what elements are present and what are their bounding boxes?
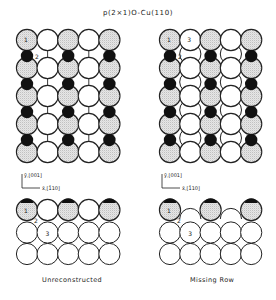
oxygen-atom — [21, 198, 34, 203]
oxygen-atom — [62, 134, 74, 146]
cu-atom — [180, 113, 201, 134]
cu-atom — [78, 113, 99, 134]
cu-atom-top-row — [200, 29, 221, 50]
y-axis-label: ȳ,[001] — [164, 172, 182, 179]
cu-atom — [78, 85, 99, 106]
cu-atom — [78, 199, 99, 220]
second-layer-arc — [220, 208, 241, 219]
cu-atom-subsurface — [200, 222, 221, 243]
cu-atom-subsurface — [58, 243, 79, 264]
top-view: 132 — [159, 29, 261, 162]
cu-atom — [37, 113, 58, 134]
cu-atom-subsurface — [200, 243, 221, 264]
atom-label: 2 — [34, 217, 38, 224]
atom-label: 1 — [24, 207, 28, 214]
oxygen-atom — [164, 78, 176, 90]
cu-atom — [180, 57, 201, 78]
cu-atom — [220, 29, 241, 50]
oxygen-atom — [103, 78, 115, 90]
oxygen-atom — [204, 198, 217, 203]
oxygen-atom — [62, 198, 75, 203]
oxygen-atom — [164, 50, 176, 62]
cu-atom — [220, 85, 241, 106]
cu-atom-subsurface — [16, 243, 37, 264]
atom-label: 1 — [24, 36, 28, 43]
cu-atom-subsurface — [16, 222, 37, 243]
unreconstructed-panel: 12ȳ,[001]x̄,[1̄10]123 — [16, 29, 120, 264]
cu-atom-subsurface — [220, 222, 241, 243]
oxygen-atom — [245, 198, 258, 203]
cu-atom — [37, 199, 58, 220]
oxygen-atom — [21, 106, 33, 118]
x-axis-label: x̄,[1̄10] — [182, 185, 200, 191]
missing-row-panel: 132ȳ,[001]x̄,[1̄10]123 — [159, 29, 261, 264]
oxygen-atom — [62, 50, 74, 62]
oxygen-atom — [103, 134, 115, 146]
cu-atom-subsurface — [99, 243, 120, 264]
oxygen-atom — [103, 198, 116, 203]
cu-atom — [180, 85, 201, 106]
axes-indicator: ȳ,[001]x̄,[1̄10] — [162, 172, 200, 191]
cu-atom-subsurface — [78, 222, 99, 243]
cu-atom-top-row — [241, 29, 262, 50]
oxygen-atom — [204, 50, 216, 62]
cu-atom — [37, 29, 58, 50]
atom-label: 2 — [178, 53, 182, 60]
cu-atom — [220, 141, 241, 162]
atom-label: 3 — [187, 36, 191, 43]
cu-atom — [78, 29, 99, 50]
oxygen-atom — [21, 50, 33, 62]
cu-atom — [78, 141, 99, 162]
cu-atom — [220, 57, 241, 78]
cu-atom — [37, 57, 58, 78]
oxygen-atom — [245, 78, 257, 90]
oxygen-atom — [204, 134, 216, 146]
cu-atom-subsurface — [99, 222, 120, 243]
oxygen-atom — [164, 198, 177, 203]
atom-label: 1 — [167, 207, 171, 214]
oxygen-atom — [21, 78, 33, 90]
oxygen-atom — [245, 50, 257, 62]
unreconstructed-caption: Unreconstructed — [42, 276, 102, 284]
oxygen-atom — [62, 106, 74, 118]
y-axis-label: ȳ,[001] — [24, 172, 42, 179]
cu-atom-subsurface — [159, 222, 180, 243]
cu-atom — [37, 141, 58, 162]
oxygen-atom — [245, 106, 257, 118]
side-view: 123 — [159, 198, 261, 264]
oxygen-atom — [164, 134, 176, 146]
cu-atom — [220, 113, 241, 134]
cu-atom-subsurface — [241, 243, 262, 264]
cu-atom-subsurface — [78, 243, 99, 264]
oxygen-atom — [103, 106, 115, 118]
atom-label: 3 — [188, 230, 192, 237]
cu-atom-subsurface — [220, 243, 241, 264]
cu-atom-subsurface — [241, 222, 262, 243]
cu-atom-subsurface — [180, 243, 201, 264]
second-layer-arc — [180, 208, 201, 219]
oxygen-atom — [21, 134, 33, 146]
atom-label: 1 — [167, 36, 171, 43]
cu-atom-subsurface — [37, 243, 58, 264]
missing-row-caption: Missing Row — [190, 276, 234, 284]
oxygen-atom — [164, 106, 176, 118]
x-axis-label: x̄,[1̄10] — [42, 185, 60, 191]
oxygen-atom — [62, 78, 74, 90]
cu-atom — [180, 141, 201, 162]
cu-atom-subsurface — [58, 222, 79, 243]
cu-atom-top-row — [58, 29, 79, 50]
cu-atom-subsurface — [159, 243, 180, 264]
oxygen-atom — [103, 50, 115, 62]
cu-atom — [78, 57, 99, 78]
atom-label: 2 — [177, 217, 181, 224]
atom-label: 2 — [35, 53, 39, 60]
cu-atom-top-row — [99, 29, 120, 50]
cu-atom — [37, 85, 58, 106]
diagram-canvas: 12ȳ,[001]x̄,[1̄10]123 132ȳ,[001]x̄,[1̄10… — [0, 0, 276, 300]
oxygen-atom — [204, 106, 216, 118]
side-view: 123 — [16, 198, 120, 264]
axes-indicator: ȳ,[001]x̄,[1̄10] — [22, 172, 60, 191]
oxygen-atom — [204, 78, 216, 90]
oxygen-atom — [245, 134, 257, 146]
top-view: 12 — [16, 29, 120, 162]
